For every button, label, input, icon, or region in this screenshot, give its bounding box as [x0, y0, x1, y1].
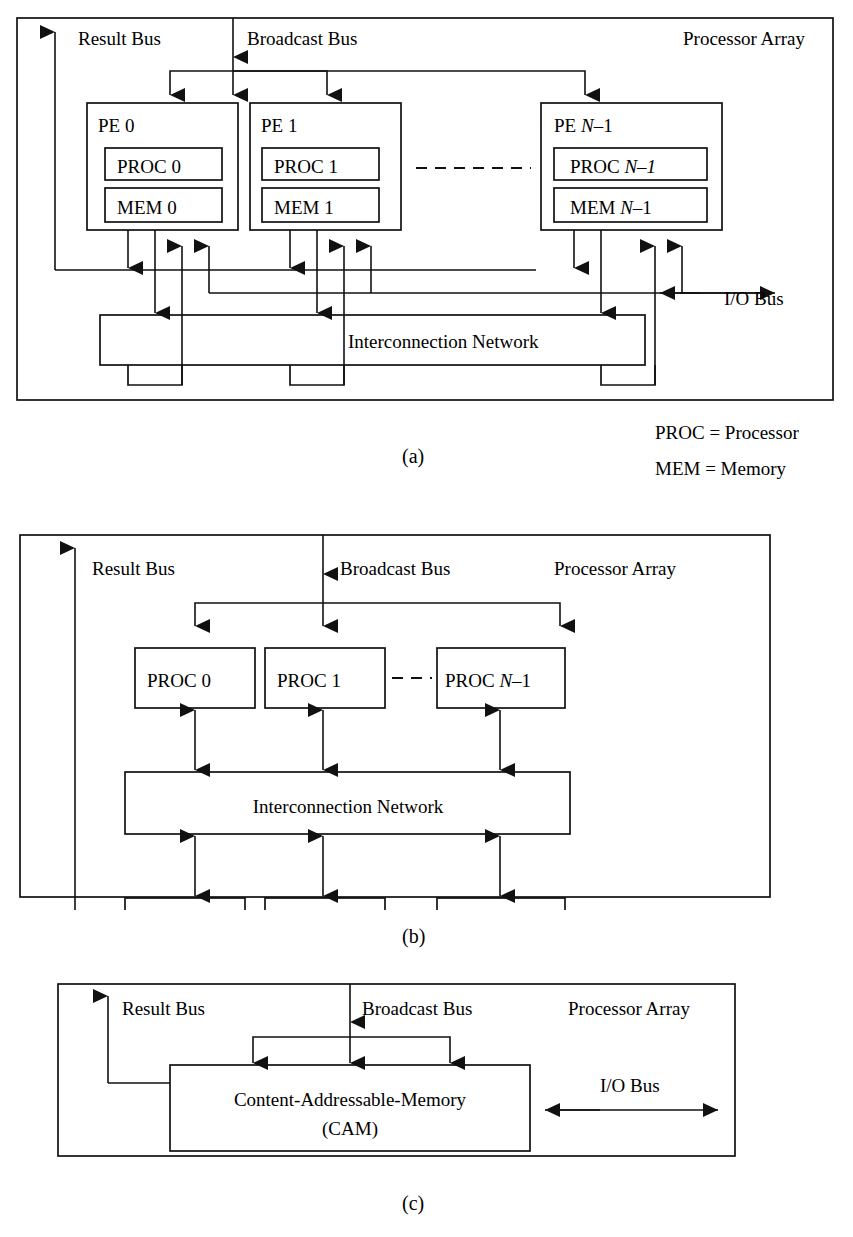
- panel-b-result-bus-label: Result Bus: [92, 558, 175, 579]
- caption-c: (c): [402, 1192, 424, 1215]
- panel-c-broadcast-bus-wire: [253, 984, 450, 1063]
- panel-b-proc-label-0: PROC 0: [147, 670, 211, 691]
- cam-label-line1: Content-Addressable-Memory: [234, 1089, 467, 1110]
- panel-b-outer-label: Processor Array: [554, 558, 676, 579]
- panel-b-diagram: Result Bus Broadcast Bus Processor Array…: [0, 530, 853, 910]
- legend-mem: MEM = Memory: [655, 458, 786, 480]
- panel-b-network-mem-links: [195, 836, 500, 896]
- panel-b-mem-box-m1[interactable]: [437, 898, 565, 910]
- caption-a: (a): [402, 445, 424, 468]
- cam-label-line2: (CAM): [322, 1118, 378, 1140]
- caption-b: (b): [402, 925, 425, 948]
- panel-b-mem-box-0[interactable]: [125, 898, 245, 910]
- mem-label-0: MEM 0: [117, 197, 177, 218]
- panel-b-proc-label-n1: PROC N–1: [445, 670, 531, 691]
- panel-c-outer-label: Processor Array: [568, 998, 690, 1019]
- panel-a-broadcast-bus-wire: [170, 18, 585, 95]
- pe1-bottom-wires: [290, 230, 371, 385]
- mem-label-1: MEM 1: [274, 197, 334, 218]
- panel-b-broadcast-bus-label: Broadcast Bus: [340, 558, 450, 579]
- panel-b-proc-network-links: [195, 710, 500, 770]
- mem-label-n1: MEM N–1: [570, 197, 652, 218]
- panel-b-mem-box-1[interactable]: [265, 898, 385, 910]
- panel-b-proc-label-1: PROC 1: [277, 670, 341, 691]
- pen1-bottom-wires: [574, 230, 682, 385]
- panel-a-io-bus-label: I/O Bus: [724, 288, 784, 309]
- panel-a-network-label: Interconnection Network: [348, 331, 539, 352]
- proc-label-n1: PROC N–1: [570, 156, 656, 177]
- panel-a-diagram: Result Bus Broadcast Bus Processor Array…: [0, 0, 853, 425]
- pe-title-0: PE 0: [98, 115, 134, 136]
- panel-a-broadcast-bus-label: Broadcast Bus: [247, 28, 357, 49]
- panel-a-result-bus-label: Result Bus: [78, 28, 161, 49]
- pe-title-1: PE 1: [261, 115, 297, 136]
- pe0-bottom-wires: [128, 230, 209, 385]
- panel-c-broadcast-bus-label: Broadcast Bus: [362, 998, 472, 1019]
- pe-title-n1: PE N–1: [554, 115, 613, 136]
- panel-b-network-label: Interconnection Network: [253, 796, 444, 817]
- panel-b-outer-frame: [20, 535, 770, 897]
- legend-proc: PROC = Processor: [655, 422, 799, 444]
- panel-a-result-bus-wire: [55, 32, 536, 270]
- panel-a-outer-label: Processor Array: [683, 28, 805, 49]
- panel-c-io-bus-label: I/O Bus: [600, 1075, 660, 1096]
- panel-b-broadcast-bus-wire: [195, 535, 560, 626]
- panel-c-diagram: Result Bus Broadcast Bus Processor Array…: [0, 980, 853, 1195]
- proc-label-0: PROC 0: [117, 156, 181, 177]
- proc-label-1: PROC 1: [274, 156, 338, 177]
- panel-c-result-bus-label: Result Bus: [122, 998, 205, 1019]
